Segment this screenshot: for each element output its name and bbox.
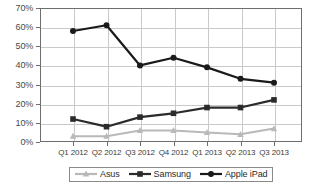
x-axis-tick-mark [241,142,242,146]
x-axis-tick-label: Q3 2013 [259,148,288,157]
data-point-marker [204,64,210,70]
data-point-marker [171,55,177,61]
x-axis-tick-mark [274,142,275,146]
legend-item-apple-ipad[interactable]: Apple iPad [200,169,268,179]
series-samsung [70,97,277,129]
legend-label: Samsung [154,169,191,179]
y-axis-tick-label: 50% [16,41,33,51]
square-marker-icon [129,169,151,179]
x-axis-tick-label: Q4 2012 [159,148,188,157]
data-point-marker [208,171,214,177]
x-axis-tick-label: Q1 2012 [58,148,87,157]
y-axis-tick-label: 60% [16,22,33,32]
x-axis-tick-mark [174,142,175,146]
series-layer [40,8,302,142]
y-axis-tick-label: 70% [16,3,33,13]
data-point-marker [104,124,110,130]
y-axis: 0%10%20%30%40%50%60%70% [0,8,40,142]
line-chart: 0%10%20%30%40%50%60%70% Q1 2012Q2 2012Q3… [0,0,309,193]
data-point-marker [137,114,143,120]
data-point-marker [70,116,76,122]
y-axis-tick-label: 10% [16,118,33,128]
series-line [73,25,274,82]
chart-legend: AsusSamsungApple iPad [69,167,273,182]
data-point-marker [238,105,244,111]
data-point-marker [137,62,143,68]
series-apple-ipad [70,22,277,85]
triangle-marker-icon [75,169,97,179]
data-point-marker [204,105,210,111]
series-asus [70,125,277,139]
data-point-marker [271,97,277,103]
legend-item-asus[interactable]: Asus [75,169,120,179]
x-axis-tick-label: Q1 2013 [192,148,221,157]
data-point-marker [137,171,143,177]
x-axis-tick-label: Q2 2013 [226,148,255,157]
data-point-marker [271,80,277,86]
data-point-marker [171,110,177,116]
data-point-marker [70,28,76,34]
x-axis-tick-mark [73,142,74,146]
legend-label: Asus [100,169,120,179]
x-axis-tick-mark [107,142,108,146]
x-axis: Q1 2012Q2 2012Q3 2012Q4 2012Q1 2013Q2 20… [40,142,302,162]
x-axis-tick-mark [207,142,208,146]
y-axis-tick-label: 0% [20,137,33,147]
y-axis-tick-label: 40% [16,60,33,70]
x-axis-tick-label: Q2 2012 [92,148,121,157]
series-svg [40,8,302,142]
circle-marker-icon [200,169,222,179]
legend-item-samsung[interactable]: Samsung [129,169,191,179]
data-point-marker [104,22,110,28]
y-axis-tick-label: 30% [16,80,33,90]
x-axis-tick-mark [140,142,141,146]
legend-label: Apple iPad [225,169,268,179]
data-point-marker [238,76,244,82]
x-axis-tick-label: Q3 2012 [125,148,154,157]
y-axis-tick-label: 20% [16,99,33,109]
